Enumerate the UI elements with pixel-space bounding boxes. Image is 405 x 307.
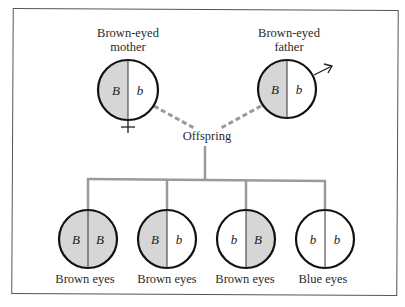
mother-label: Brown-eyed mother xyxy=(97,26,159,54)
father-label-line2: father xyxy=(258,40,320,54)
offspring-1-allele-right: B xyxy=(96,232,104,247)
father-genotype-circle: B b xyxy=(258,60,316,118)
father-allele-right: b xyxy=(296,82,303,97)
offspring-circle-4: b b xyxy=(296,210,354,268)
mother-label-line2: mother xyxy=(97,40,159,54)
father-connector-line xyxy=(221,106,261,128)
offspring-2-allele-right: b xyxy=(176,232,183,247)
mother-genotype-circle: B b xyxy=(98,60,158,120)
mother-label-line1: Brown-eyed xyxy=(97,26,159,40)
offspring-2-allele-left: B xyxy=(151,232,159,247)
father-allele-left: B xyxy=(271,82,279,97)
offspring-1-phenotype: Brown eyes xyxy=(55,272,114,286)
father-label: Brown-eyed father xyxy=(258,26,320,54)
offspring-circle-3: b B xyxy=(217,210,275,268)
offspring-circle-2: B b xyxy=(138,210,196,268)
mother-connector-line xyxy=(154,106,194,128)
mother-allele-right: b xyxy=(137,83,144,98)
offspring-2-phenotype: Brown eyes xyxy=(137,272,196,286)
offspring-circle-1: B B xyxy=(59,210,117,268)
father-label-line1: Brown-eyed xyxy=(258,26,320,40)
offspring-tree xyxy=(87,146,326,210)
offspring-4-allele-right: b xyxy=(334,232,341,247)
offspring-4-allele-left: b xyxy=(310,232,317,247)
offspring-4-phenotype: Blue eyes xyxy=(299,272,348,286)
offspring-3-phenotype: Brown eyes xyxy=(215,272,274,286)
pedigree-diagram: B b B b B B B b b xyxy=(0,0,405,307)
offspring-1-allele-left: B xyxy=(72,232,80,247)
female-symbol-icon xyxy=(121,120,135,133)
male-symbol-icon xyxy=(314,64,332,75)
offspring-3-allele-right: B xyxy=(254,232,262,247)
offspring-3-allele-left: b xyxy=(231,232,238,247)
mother-allele-left: B xyxy=(112,83,120,98)
offspring-label: Offspring xyxy=(183,129,231,143)
